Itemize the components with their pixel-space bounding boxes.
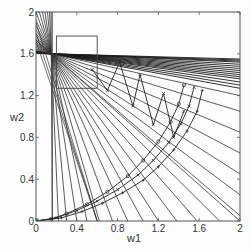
x-tick-label: 0.4: [70, 223, 84, 234]
y-tick-label: 0.4: [20, 174, 34, 185]
fan-line: [20, 12, 177, 221]
fan-line: [36, 41, 97, 221]
y-tick-label: 2: [28, 7, 34, 18]
plot-content: [4, 12, 240, 224]
fan-line: [45, 12, 77, 221]
fan-line: [36, 12, 113, 221]
fan-line: [25, 12, 159, 221]
y-tick-label: 0.8: [20, 132, 34, 143]
y-tick-label: 1.6: [20, 48, 34, 59]
x-tick-label: 0.8: [111, 223, 125, 234]
chart: 00.40.81.21.6200.40.81.21.62 w1 w2: [0, 0, 251, 249]
y-axis-label: w2: [9, 111, 24, 123]
fan-line: [28, 12, 143, 221]
x-tick-label: 0: [33, 223, 39, 234]
x-tick-label: 1.6: [192, 223, 206, 234]
x-tick-label: 1.2: [151, 223, 165, 234]
fan-line: [39, 12, 99, 221]
y-tick-label: 1.2: [20, 90, 34, 101]
fan-line: [9, 12, 219, 221]
x-axis-label: w1: [126, 232, 141, 244]
y-tick-label: 0: [28, 216, 34, 227]
x-tick-label: 2: [237, 223, 243, 234]
